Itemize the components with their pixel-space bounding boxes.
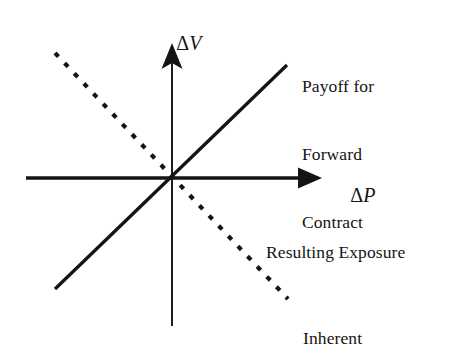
exposure-annotation-line-1: Resulting Exposure: [266, 242, 405, 263]
payoff-diagram: ΔV ΔP Payoff for Forward Contract Result…: [0, 0, 457, 345]
payoff-annotation-line-1: Payoff for: [302, 75, 374, 98]
inherent-annotation-line-1: Inherent: [303, 327, 388, 345]
delta-v-variable: V: [189, 32, 201, 54]
payoff-annotation-line-2: Forward: [302, 143, 374, 166]
inherent-risk-profile-annotation: Inherent Risk Profile: [303, 281, 388, 345]
delta-v-symbol: Δ: [176, 32, 189, 54]
delta-v-axis-label: ΔV: [157, 8, 202, 79]
